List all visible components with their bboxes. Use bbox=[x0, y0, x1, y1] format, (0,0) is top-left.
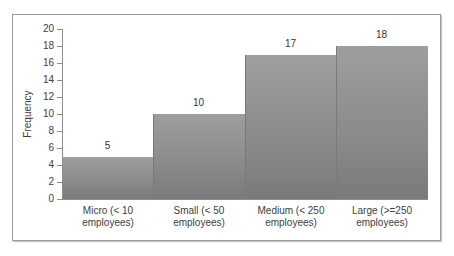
category-label-line: Micro (< 10 bbox=[62, 205, 154, 217]
y-tick-label: 14 bbox=[30, 75, 54, 85]
category-label-line: employees) bbox=[62, 217, 154, 229]
y-tick-label: 12 bbox=[30, 92, 54, 102]
bar-micro bbox=[62, 157, 153, 200]
y-tick-label: 6 bbox=[30, 143, 54, 153]
category-label: Large (>=250 employees) bbox=[336, 205, 428, 229]
y-tick-label: 8 bbox=[30, 126, 54, 136]
data-label: 10 bbox=[153, 97, 244, 108]
y-tick-label: 10 bbox=[30, 109, 54, 119]
data-label: 5 bbox=[62, 140, 153, 151]
category-label-line: Medium (< 250 bbox=[245, 205, 337, 217]
y-tick-label: 2 bbox=[30, 177, 54, 187]
x-axis-line bbox=[62, 199, 428, 200]
data-label: 18 bbox=[336, 29, 427, 40]
y-tick-label: 18 bbox=[30, 41, 54, 51]
category-label: Medium (< 250 employees) bbox=[245, 205, 337, 229]
bar-medium bbox=[245, 55, 336, 200]
category-label-line: employees) bbox=[336, 217, 428, 229]
category-label: Micro (< 10 employees) bbox=[62, 205, 154, 229]
category-label: Small (< 50 employees) bbox=[153, 205, 245, 229]
data-label: 17 bbox=[245, 38, 336, 49]
y-axis-line bbox=[62, 29, 63, 199]
bar-large bbox=[336, 46, 428, 199]
y-tick-label: 20 bbox=[30, 24, 54, 34]
y-tick-label: 0 bbox=[30, 194, 54, 204]
bar-small bbox=[153, 114, 245, 199]
y-tick-label: 16 bbox=[30, 58, 54, 68]
plot-area bbox=[62, 29, 428, 199]
category-label-line: Small (< 50 bbox=[153, 205, 245, 217]
category-label-line: Large (>=250 bbox=[336, 205, 428, 217]
y-tick-label: 4 bbox=[30, 160, 54, 170]
category-label-line: employees) bbox=[153, 217, 245, 229]
category-label-line: employees) bbox=[245, 217, 337, 229]
